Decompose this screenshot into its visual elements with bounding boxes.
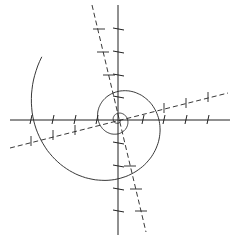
spiral-diagram-canvas [0,0,236,245]
spiral-curve [31,57,160,181]
spiral-path [31,57,160,181]
rotated-axis-steep [92,5,146,232]
spiral-diagram [0,0,236,245]
dashed-rotated-axes [10,5,228,232]
